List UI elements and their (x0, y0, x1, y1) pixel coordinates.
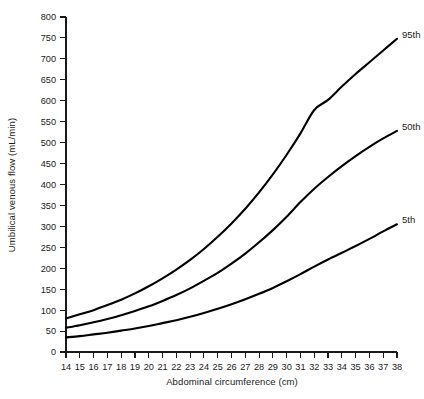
curve-5th (66, 224, 397, 337)
x-tick-label: 16 (88, 362, 98, 372)
x-tick-label: 31 (295, 362, 305, 372)
y-tick-label: 150 (41, 285, 56, 295)
x-tick-label: 14 (61, 362, 71, 372)
x-axis-tick-marks (66, 352, 397, 358)
x-tick-label: 38 (392, 362, 402, 372)
chart-container: 0501001502002503003504004505005506006507… (0, 0, 424, 399)
x-tick-label: 33 (323, 362, 333, 372)
x-axis-tick-labels: 1415161718192021222324252627282930313233… (61, 362, 402, 372)
umbilical-venous-flow-chart: 0501001502002503003504004505005506006507… (0, 0, 424, 399)
curve-label-5th: 5th (402, 214, 415, 225)
x-tick-label: 34 (337, 362, 347, 372)
y-axis-tick-labels: 0501001502002503003504004505005506006507… (41, 12, 56, 357)
x-tick-label: 36 (364, 362, 374, 372)
x-tick-label: 35 (351, 362, 361, 372)
y-tick-label: 550 (41, 117, 56, 127)
y-tick-label: 300 (41, 222, 56, 232)
x-tick-label: 18 (116, 362, 126, 372)
x-tick-label: 28 (254, 362, 264, 372)
y-axis-title: Umbilical venous flow (mL/min) (6, 118, 17, 252)
x-tick-label: 19 (130, 362, 140, 372)
y-tick-label: 750 (41, 33, 56, 43)
y-tick-label: 400 (41, 180, 56, 190)
x-tick-label: 30 (282, 362, 292, 372)
y-tick-label: 50 (46, 326, 56, 336)
x-tick-label: 24 (199, 362, 209, 372)
curve-95th (66, 39, 397, 319)
curve-end-labels: 95th50th5th (402, 29, 421, 226)
x-tick-label: 32 (309, 362, 319, 372)
x-tick-label: 21 (157, 362, 167, 372)
x-tick-label: 29 (268, 362, 278, 372)
x-tick-label: 37 (378, 362, 388, 372)
y-tick-label: 450 (41, 159, 56, 169)
y-tick-label: 200 (41, 264, 56, 274)
y-tick-label: 0 (51, 347, 56, 357)
y-tick-label: 250 (41, 243, 56, 253)
curve-50th (66, 131, 397, 328)
y-tick-label: 600 (41, 96, 56, 106)
y-tick-label: 350 (41, 201, 56, 211)
data-curves (66, 39, 397, 338)
x-tick-label: 27 (240, 362, 250, 372)
x-tick-label: 20 (144, 362, 154, 372)
x-tick-label: 25 (213, 362, 223, 372)
y-tick-label: 650 (41, 75, 56, 85)
x-axis-title: Abdominal circumference (cm) (166, 376, 298, 387)
x-tick-label: 22 (171, 362, 181, 372)
y-tick-label: 500 (41, 138, 56, 148)
y-tick-label: 700 (41, 54, 56, 64)
x-tick-label: 26 (226, 362, 236, 372)
y-axis-tick-marks (60, 17, 66, 352)
x-tick-label: 23 (185, 362, 195, 372)
curve-label-95th: 95th (402, 29, 421, 40)
x-tick-label: 17 (102, 362, 112, 372)
curve-label-50th: 50th (402, 121, 421, 132)
y-tick-label: 800 (41, 12, 56, 22)
y-tick-label: 100 (41, 306, 56, 316)
x-tick-label: 15 (75, 362, 85, 372)
